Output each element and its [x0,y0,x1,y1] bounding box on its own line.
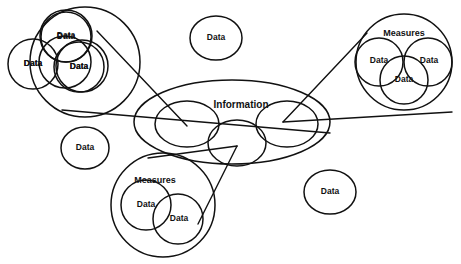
bottom-measures-label: Measures [134,175,176,185]
standalone-data-left[interactable]: Data [61,127,109,169]
standalone-data-bottom-right[interactable]: Data [304,170,356,214]
information-label: Information [214,99,269,110]
right-measures-label: Measures [383,28,425,38]
top-left-data-text-left: Data [24,58,43,68]
diagram-svg: Information Data Data Data Data Data Dat… [0,0,461,264]
information-outer-ellipse[interactable] [134,80,330,164]
standalone-nodes-layer: Data Data Data [61,16,356,214]
top-left-data-text-right: Data [70,61,89,71]
right-measures-data-label-left: Data [370,55,389,65]
standalone-data-top-label: Data [207,32,226,42]
right-measures-data-label-right: Data [420,55,439,65]
right-measures-data-label-bottom: Data [395,74,414,84]
top-left-data-text-top: Data [57,30,76,40]
standalone-data-top[interactable]: Data [190,16,242,60]
right-measures-cluster[interactable]: Measures Data Data Data [355,14,452,110]
connector-right-to-info-right-lower [283,112,452,122]
diagram-canvas: Information Data Data Data Data Data Dat… [0,0,461,264]
standalone-data-left-label: Data [76,142,95,152]
information-slot-2[interactable] [208,120,266,166]
standalone-data-bottom-right-label: Data [321,186,340,196]
bottom-measures-data-label-right: Data [170,213,189,223]
connector-bottom-to-info-middle-right [198,146,237,224]
connector-bottom-to-info-middle-left [148,146,237,158]
bottom-measures-cluster[interactable]: Measures Data Data [111,153,215,257]
information-slot-1[interactable] [155,101,219,147]
connector-topleft-to-info-left [97,31,187,126]
bottom-measures-data-label-left: Data [137,199,156,209]
